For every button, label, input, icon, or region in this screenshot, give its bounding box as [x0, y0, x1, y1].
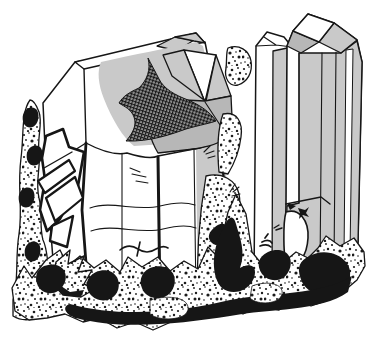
rock-texture-blob	[150, 297, 188, 319]
illustration-canvas	[0, 0, 368, 349]
crystal-illustration	[0, 0, 368, 349]
rock-texture-blob	[250, 283, 282, 303]
